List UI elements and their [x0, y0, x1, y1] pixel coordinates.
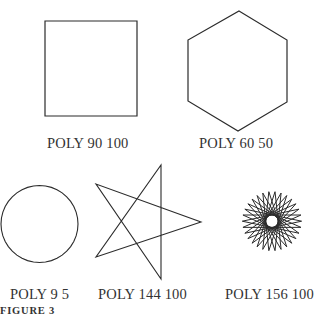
figure-canvas: [0, 0, 336, 319]
label-poly-144-100: POLY 144 100: [98, 286, 187, 303]
figure-caption: FIGURE 3: [0, 305, 55, 316]
label-poly-60-50: POLY 60 50: [199, 135, 273, 152]
poly-9-5-circle: [1, 186, 78, 263]
label-poly-9-5: POLY 9 5: [10, 286, 69, 303]
poly-144-100-star: [96, 165, 201, 279]
label-poly-90-100: POLY 90 100: [47, 135, 129, 152]
poly-60-50-hexagon: [188, 11, 287, 131]
poly-156-100-star: [242, 192, 301, 251]
poly-90-100-square: [45, 21, 137, 116]
label-poly-156-100: POLY 156 100: [225, 286, 314, 303]
